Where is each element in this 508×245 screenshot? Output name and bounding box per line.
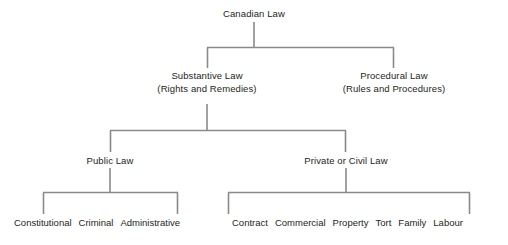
node-public-law-label: Public Law — [87, 155, 134, 168]
node-substantive-law-sublabel: (Rights and Remedies) — [157, 83, 256, 96]
node-contract: Contract — [232, 217, 268, 228]
node-substantive-law-label: Substantive Law — [157, 70, 256, 83]
node-property: Property — [333, 217, 369, 228]
node-labour: Labour — [433, 217, 463, 228]
node-administrative: Administrative — [120, 217, 180, 228]
node-private-or-civil-law-label: Private or Civil Law — [304, 155, 387, 168]
node-constitutional: Constitutional — [14, 217, 72, 228]
node-procedural-law-label: Procedural Law — [343, 70, 446, 83]
node-canadian-law-label: Canadian Law — [223, 8, 285, 21]
leaf-row-private-or-civil-law: Contract Commercial Property Tort Family… — [232, 217, 463, 228]
node-public-law: Public Law — [87, 155, 134, 168]
node-procedural-law-sublabel: (Rules and Procedures) — [343, 83, 446, 96]
organization-chart: Canadian Law Substantive Law (Rights and… — [0, 0, 508, 245]
node-procedural-law: Procedural Law (Rules and Procedures) — [343, 70, 446, 95]
leaf-row-public-law: Constitutional Criminal Administrative — [14, 217, 180, 228]
node-criminal: Criminal — [79, 217, 114, 228]
node-canadian-law: Canadian Law — [223, 8, 285, 21]
node-commercial: Commercial — [275, 217, 326, 228]
connector-lines — [0, 0, 508, 245]
node-family: Family — [398, 217, 426, 228]
node-private-or-civil-law: Private or Civil Law — [304, 155, 387, 168]
node-substantive-law: Substantive Law (Rights and Remedies) — [157, 70, 256, 95]
node-tort: Tort — [376, 217, 392, 228]
